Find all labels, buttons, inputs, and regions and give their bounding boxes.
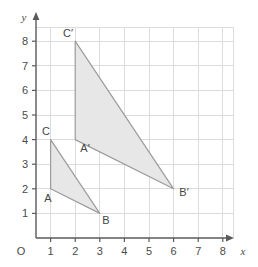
x-tick-label-6: 6 <box>171 245 177 257</box>
x-tick-label-8: 8 <box>220 245 226 257</box>
y-tick-label-6: 6 <box>22 84 28 96</box>
vertex-label-a: A <box>44 192 52 204</box>
x-tick-label-7: 7 <box>195 245 201 257</box>
y-tick-label-5: 5 <box>22 109 28 121</box>
y-axis-label: y <box>21 11 27 23</box>
y-tick-label-1: 1 <box>22 207 28 219</box>
y-tick-label-4: 4 <box>22 134 28 146</box>
x-tick-label-2: 2 <box>72 245 78 257</box>
vertex-label-a-prime: A′ <box>80 142 89 154</box>
y-tick-label-8: 8 <box>22 35 28 47</box>
y-tick-label-7: 7 <box>22 60 28 72</box>
x-tick-label-5: 5 <box>146 245 152 257</box>
x-axis-label: x <box>240 245 246 257</box>
y-axis-arrowhead <box>33 12 40 20</box>
vertex-label-b: B <box>102 214 109 226</box>
coordinate-plane: 1 2 3 4 5 6 7 8 1 2 3 4 5 6 7 8 O x y A … <box>0 0 258 267</box>
y-tick-label-3: 3 <box>22 158 28 170</box>
x-tick-label-3: 3 <box>97 245 103 257</box>
coordinate-geometry-figure: 1 2 3 4 5 6 7 8 1 2 3 4 5 6 7 8 O x y A … <box>0 0 258 267</box>
vertex-label-c: C <box>42 125 50 137</box>
vertex-label-c-prime: C′ <box>63 27 73 39</box>
origin-label: O <box>17 245 26 257</box>
vertex-label-b-prime: B′ <box>179 186 188 198</box>
y-tick-label-2: 2 <box>22 183 28 195</box>
x-tick-label-4: 4 <box>121 245 127 257</box>
x-tick-label-1: 1 <box>48 245 54 257</box>
